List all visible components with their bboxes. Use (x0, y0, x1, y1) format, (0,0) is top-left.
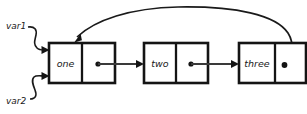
node-two-label: two (151, 58, 168, 69)
node-three: three (239, 43, 306, 83)
var2-pointer (30, 72, 50, 99)
node-three-label: three (244, 58, 269, 69)
node-one: one (49, 43, 144, 83)
node-two: two (144, 43, 239, 83)
node-one-label: one (57, 58, 75, 69)
linked-list-diagram: one two three (0, 0, 307, 114)
diagram-canvas: one two three (0, 0, 307, 114)
var1-pointer (28, 27, 50, 54)
var2-label: var2 (6, 96, 27, 106)
var1-label: var1 (6, 21, 26, 31)
node-three-pointer-dot (282, 62, 288, 68)
